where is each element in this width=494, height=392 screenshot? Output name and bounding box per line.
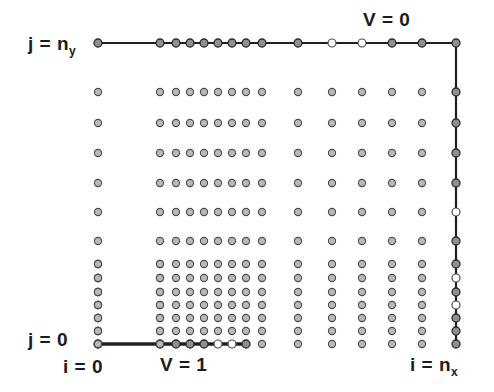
grid-node [200,314,207,321]
grid-node [452,149,460,157]
grid-node [172,149,179,156]
grid-node [418,340,425,347]
grid-node [156,288,163,295]
grid-node [156,340,163,347]
grid-node [388,327,395,334]
grid-node [200,237,207,244]
grid-node [228,301,235,308]
grid-node [228,237,235,244]
grid-node [156,314,163,321]
grid-node [294,149,301,156]
grid-node [358,208,365,215]
grid-node [452,179,460,187]
grid-node [214,327,221,334]
grid-node [388,301,395,308]
grid-node [418,301,425,308]
grid-node [186,39,194,47]
grid-node [214,288,221,295]
grid-node [328,288,335,295]
grid-node [214,274,221,281]
grid-node [94,301,101,308]
grid-node [156,119,163,126]
label-j-equals-ny: j = ny [28,34,76,53]
grid-node [258,119,265,126]
grid-node [242,149,249,156]
grid-node [94,327,101,334]
grid-node [156,149,163,156]
grid-node [214,39,222,47]
grid-node [388,314,395,321]
grid-node [172,274,179,281]
grid-node [258,288,265,295]
grid-node [172,314,179,321]
grid-node [186,179,193,186]
grid-node [94,39,102,47]
grid-node [294,237,301,244]
grid-node [186,274,193,281]
grid-node [228,274,235,281]
grid-node [242,208,249,215]
grid-node [94,314,101,321]
grid-node [172,88,179,95]
grid-node [94,288,101,295]
grid-node [418,149,425,156]
grid-node [186,149,193,156]
grid-node [258,179,265,186]
grid-node [172,288,179,295]
grid-node [214,119,221,126]
grid-node [358,274,365,281]
grid-node [214,208,221,215]
grid-node [200,88,207,95]
grid-node [452,340,460,348]
grid-node [294,208,301,215]
grid-node [452,88,460,96]
grid-node [388,149,395,156]
grid-node [328,88,335,95]
grid-node [388,88,395,95]
grid-node [186,301,193,308]
grid-node [452,274,460,282]
grid-node [228,179,235,186]
grid-node [358,260,365,267]
grid-node [186,327,193,334]
grid-node [214,88,221,95]
grid-node [214,149,221,156]
grid-node [328,340,335,347]
grid-node [200,327,207,334]
grid-node [258,39,266,47]
grid-node [156,208,163,215]
grid-node [214,301,221,308]
grid-node [228,208,235,215]
grid-nodes [94,39,460,348]
grid-node [242,39,250,47]
grid-node [94,274,101,281]
grid-node [328,314,335,321]
grid-node [242,301,249,308]
grid-node [156,260,163,267]
grid-node [418,88,425,95]
grid-node [452,288,460,296]
grid-node [94,260,101,267]
grid-node [186,260,193,267]
grid-node [452,39,460,47]
grid-node [94,179,101,186]
grid-node [214,314,221,321]
grid-node [200,39,208,47]
grid-node [294,327,301,334]
grid-node [156,179,163,186]
grid-node [228,39,236,47]
grid-node [242,179,249,186]
grid-node [242,314,249,321]
grid-node [156,39,164,47]
grid-node [200,119,207,126]
grid-node [328,237,335,244]
grid-node [200,208,207,215]
grid-node [328,39,336,47]
grid-node [258,301,265,308]
grid-node [172,179,179,186]
grid-node [258,340,265,347]
grid-node [294,88,301,95]
grid-node [94,88,101,95]
grid-node [156,301,163,308]
grid-node [328,260,335,267]
